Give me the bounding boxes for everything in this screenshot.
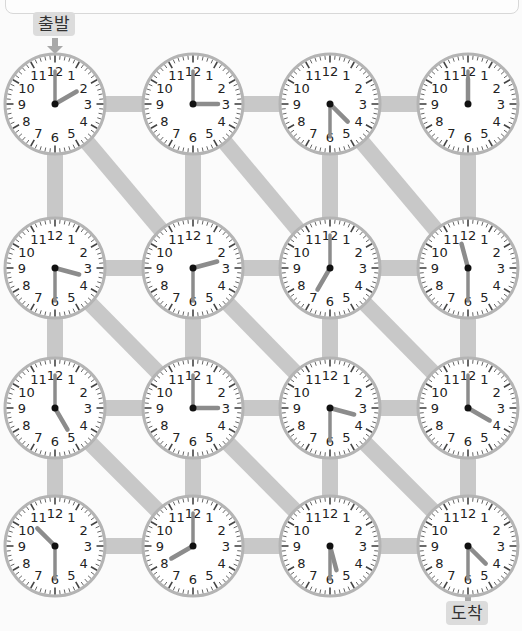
clock-numeral: 9 — [18, 539, 26, 554]
clock-numeral: 11 — [30, 510, 47, 525]
clock-face[interactable]: 121234567891011 — [418, 496, 518, 596]
clock-numeral: 6 — [189, 572, 197, 587]
clock-numeral: 2 — [492, 385, 500, 400]
clock-numeral: 3 — [84, 97, 92, 112]
clock-numeral: 2 — [492, 81, 500, 96]
clock-numeral: 3 — [84, 539, 92, 554]
clock-face[interactable]: 121234567891011 — [5, 496, 105, 596]
clock-center — [52, 265, 59, 272]
clock-numeral: 2 — [79, 385, 87, 400]
clock-numeral: 1 — [480, 68, 488, 83]
clock-numeral: 9 — [156, 401, 164, 416]
clock-numeral: 4 — [492, 114, 500, 129]
clock-numeral: 2 — [354, 245, 362, 260]
clock-face[interactable]: 121234567891011 — [143, 358, 243, 458]
clock-numeral: 4 — [492, 278, 500, 293]
clock-numeral: 11 — [30, 372, 47, 387]
clock-numeral: 4 — [79, 278, 87, 293]
clock-numeral: 9 — [293, 401, 301, 416]
clock-numeral: 4 — [79, 418, 87, 433]
end-label: 도착 — [446, 601, 488, 625]
clock-face[interactable]: 121234567891011 — [418, 54, 518, 154]
clock-numeral: 2 — [492, 245, 500, 260]
clock-numeral: 11 — [305, 68, 322, 83]
clock-numeral: 1 — [67, 232, 75, 247]
clock-numeral: 8 — [22, 418, 30, 433]
clock-numeral: 9 — [293, 261, 301, 276]
clock-numeral: 5 — [342, 430, 350, 445]
clock-center — [327, 265, 334, 272]
clock-numeral: 12 — [322, 64, 339, 79]
clock-numeral: 8 — [297, 556, 305, 571]
clock-face[interactable]: 121234567891011 — [5, 218, 105, 318]
clock-numeral: 3 — [497, 261, 505, 276]
clock-numeral: 12 — [47, 506, 64, 521]
clock-numeral: 4 — [492, 556, 500, 571]
clock-numeral: 7 — [309, 568, 317, 583]
clock-numeral: 7 — [172, 568, 180, 583]
clock-numeral: 4 — [354, 418, 362, 433]
clock-numeral: 3 — [222, 539, 230, 554]
clock-numeral: 2 — [217, 81, 225, 96]
clock-numeral: 1 — [205, 68, 213, 83]
clock-numeral: 6 — [51, 434, 59, 449]
clock-numeral: 4 — [79, 114, 87, 129]
clock-numeral: 5 — [480, 568, 488, 583]
clock-face[interactable]: 121234567891011 — [5, 54, 105, 154]
clock-numeral: 12 — [322, 368, 339, 383]
clock-numeral: 5 — [480, 290, 488, 305]
clock-numeral: 5 — [342, 126, 350, 141]
clock-face[interactable]: 121234567891011 — [143, 496, 243, 596]
clock-numeral: 11 — [168, 372, 185, 387]
clock-numeral: 3 — [84, 261, 92, 276]
clock-numeral: 7 — [309, 430, 317, 445]
clock-center — [327, 101, 334, 108]
clock-numeral: 4 — [217, 278, 225, 293]
clock-center — [465, 101, 472, 108]
clock-face[interactable]: 121234567891011 — [5, 358, 105, 458]
clock-numeral: 8 — [160, 556, 168, 571]
clock-numeral: 2 — [217, 385, 225, 400]
clock-numeral: 6 — [189, 130, 197, 145]
clock-numeral: 3 — [497, 97, 505, 112]
clock-face[interactable]: 121234567891011 — [280, 218, 380, 318]
clock-numeral: 2 — [354, 385, 362, 400]
clock-numeral: 5 — [342, 568, 350, 583]
clock-numeral: 3 — [359, 539, 367, 554]
clock-numeral: 4 — [217, 114, 225, 129]
clock-face[interactable]: 121234567891011 — [143, 54, 243, 154]
clock-maze: 1212345678910111212345678910111212345678… — [0, 0, 522, 631]
clock-face[interactable]: 121234567891011 — [280, 54, 380, 154]
clock-numeral: 7 — [172, 290, 180, 305]
clock-numeral: 2 — [354, 523, 362, 538]
clock-center — [465, 405, 472, 412]
clock-numeral: 11 — [443, 510, 460, 525]
clock-numeral: 6 — [51, 130, 59, 145]
clock-face[interactable]: 121234567891011 — [418, 218, 518, 318]
clock-numeral: 2 — [492, 523, 500, 538]
clock-face[interactable]: 121234567891011 — [418, 358, 518, 458]
clock-numeral: 9 — [156, 261, 164, 276]
clock-numeral: 1 — [205, 372, 213, 387]
clock-numeral: 3 — [359, 401, 367, 416]
clock-numeral: 12 — [47, 228, 64, 243]
clock-numeral: 4 — [217, 418, 225, 433]
clock-center — [465, 543, 472, 550]
clock-numeral: 7 — [447, 430, 455, 445]
clock-numeral: 7 — [172, 126, 180, 141]
clock-numeral: 5 — [67, 568, 75, 583]
clock-face[interactable]: 121234567891011 — [280, 358, 380, 458]
clock-numeral: 11 — [443, 232, 460, 247]
clock-numeral: 1 — [480, 232, 488, 247]
path-layer — [55, 104, 468, 546]
clock-numeral: 8 — [22, 114, 30, 129]
clock-numeral: 6 — [464, 130, 472, 145]
clock-numeral: 4 — [354, 278, 362, 293]
clock-numeral: 1 — [342, 510, 350, 525]
clock-numeral: 2 — [79, 81, 87, 96]
clock-numeral: 5 — [67, 126, 75, 141]
clock-numeral: 1 — [67, 510, 75, 525]
clock-numeral: 6 — [326, 294, 334, 309]
clock-face[interactable]: 121234567891011 — [280, 496, 380, 596]
clock-face[interactable]: 121234567891011 — [143, 218, 243, 318]
